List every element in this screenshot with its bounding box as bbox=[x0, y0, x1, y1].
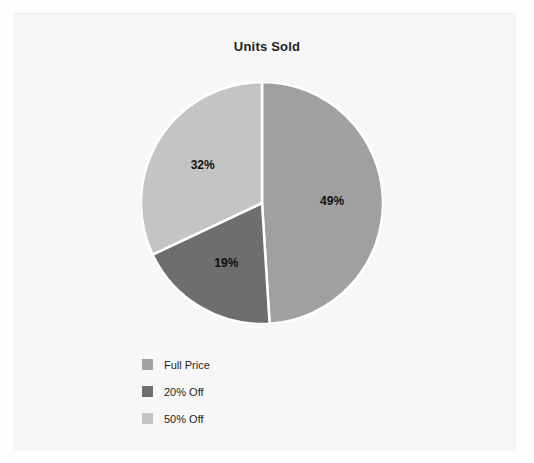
chart-screenshot: Units Sold 49%19%32% Full Price20% Off50… bbox=[0, 0, 534, 463]
legend-item-label: 50% Off bbox=[164, 413, 204, 425]
pie-chart: 49%19%32% bbox=[141, 82, 383, 324]
pie-slice-label: 32% bbox=[191, 158, 215, 172]
legend-color-swatch bbox=[142, 413, 153, 424]
pie-slice-label: 19% bbox=[214, 256, 238, 270]
legend-item[interactable]: 50% Off bbox=[142, 405, 312, 432]
chart-legend: Full Price20% Off50% Off bbox=[142, 351, 312, 432]
legend-item[interactable]: 20% Off bbox=[142, 378, 312, 405]
legend-item-label: 20% Off bbox=[164, 386, 204, 398]
pie-slice-group bbox=[141, 82, 383, 324]
legend-item-label: Full Price bbox=[164, 359, 210, 371]
pie-chart-svg bbox=[141, 82, 383, 324]
pie-slice-label: 49% bbox=[320, 194, 344, 208]
chart-title: Units Sold bbox=[0, 39, 534, 54]
legend-item[interactable]: Full Price bbox=[142, 351, 312, 378]
legend-color-swatch bbox=[142, 359, 153, 370]
legend-color-swatch bbox=[142, 386, 153, 397]
